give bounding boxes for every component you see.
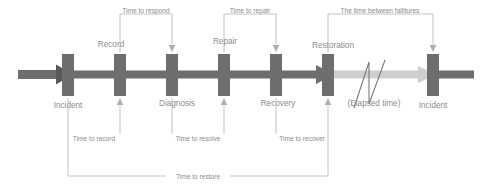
- milestone-label-repair: Repair: [213, 37, 237, 46]
- elapsed-time-label: (Elapsed time): [348, 99, 401, 108]
- milestone-bar-repair: [218, 54, 230, 96]
- milestone-label-recovery: Recovery: [261, 99, 296, 108]
- incident-timeline-diagram: Time to respond Time to repair The time …: [0, 0, 488, 189]
- milestone-bar-diagnosis: [166, 54, 178, 96]
- measure-label-time-to-restore-text: Time to restore: [176, 173, 220, 180]
- milestone-bar-recovery: [270, 54, 282, 96]
- milestone-bar-incident-start: [62, 54, 74, 96]
- measure-label-time-to-record: Time to record: [73, 135, 116, 142]
- milestone-label-record: Record: [98, 40, 125, 49]
- axis-main-segment: [66, 71, 324, 79]
- measure-label-time-to-respond: Time to respond: [122, 7, 170, 15]
- milestone-label-incident-next: Incident: [419, 101, 448, 110]
- milestone-label-restoration: Restoration: [312, 41, 354, 50]
- measure-label-time-between-failures: The time between failitures: [341, 7, 420, 14]
- milestone-bar-restoration: [322, 54, 334, 96]
- milestone-bar-record: [114, 54, 126, 96]
- milestone-label-diagnosis: Diagnosis: [159, 99, 195, 108]
- measure-label-time-to-repair: Time to repair: [230, 7, 271, 15]
- measure-label-time-to-recover: Time to recover: [279, 135, 325, 142]
- diagram-canvas: Time to respond Time to repair The time …: [0, 0, 488, 189]
- measure-label-time-to-resolve: Time to resolve: [176, 135, 221, 142]
- measure-time-to-respond: Time to respond: [120, 7, 175, 53]
- milestone-bar-incident-next: [427, 54, 439, 96]
- timeline-axis: [18, 65, 474, 85]
